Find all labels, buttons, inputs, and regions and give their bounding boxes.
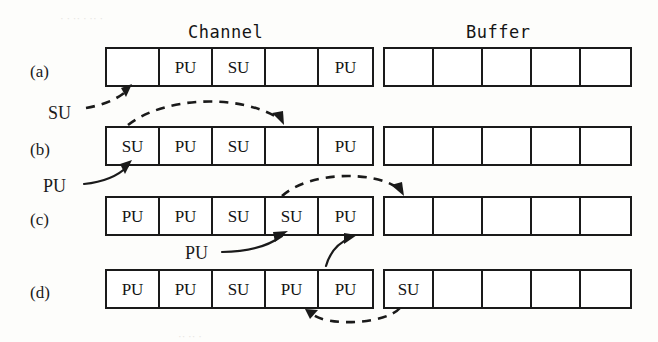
channel-strip-d: PU PU SU PU PU	[105, 269, 374, 309]
channel-cell[interactable]: PU	[266, 271, 319, 307]
channel-strip-a: PU SU PU	[105, 47, 374, 87]
caption-pu-arrival-b: PU	[43, 176, 66, 197]
buffer-cell[interactable]	[532, 198, 581, 234]
channel-cell[interactable]: PU	[160, 49, 213, 85]
channel-cell[interactable]: PU	[160, 271, 213, 307]
buffer-cell[interactable]	[434, 198, 483, 234]
arrow-channel-b-shift-icon	[128, 101, 278, 125]
channel-cell[interactable]: SU	[213, 49, 266, 85]
buffer-cell[interactable]	[581, 49, 630, 85]
row-label-c: (c)	[30, 210, 49, 230]
channel-cell[interactable]	[107, 49, 160, 85]
arrow-channel-c-to-buffer-icon	[282, 176, 398, 196]
row-label-d: (d)	[30, 283, 50, 303]
channel-cell[interactable]: PU	[160, 128, 213, 164]
channel-cell[interactable]: SU	[213, 128, 266, 164]
buffer-cell[interactable]	[532, 128, 581, 164]
channel-cell[interactable]	[266, 128, 319, 164]
channel-cell[interactable]: SU	[266, 198, 319, 234]
channel-cell[interactable]: SU	[213, 198, 266, 234]
channel-cell[interactable]: PU	[319, 128, 372, 164]
channel-cell[interactable]: PU	[319, 49, 372, 85]
channel-cell[interactable]: SU	[213, 271, 266, 307]
buffer-strip-d: SU	[383, 269, 632, 309]
channel-cell[interactable]: PU	[107, 198, 160, 234]
arrow-pu-to-channel-b-icon	[84, 166, 128, 184]
arrow-su-to-channel-a-icon	[86, 90, 128, 108]
buffer-strip-c	[383, 196, 632, 236]
arrow-channel-c-to-buffer-head-icon	[391, 182, 404, 196]
page-speckle: · · ·· · ·· ·	[60, 12, 103, 24]
buffer-cell[interactable]	[581, 271, 630, 307]
buffer-strip-b	[383, 126, 632, 166]
row-label-b: (b)	[30, 140, 50, 160]
buffer-cell[interactable]	[483, 49, 532, 85]
buffer-cell[interactable]	[532, 49, 581, 85]
channel-cell[interactable]: PU	[319, 198, 372, 234]
channel-strip-b: SU PU SU PU	[105, 126, 374, 166]
buffer-cell[interactable]	[385, 128, 434, 164]
buffer-cell[interactable]	[581, 198, 630, 234]
channel-cell[interactable]: SU	[107, 128, 160, 164]
buffer-cell[interactable]	[434, 49, 483, 85]
arrow-pu-to-channel-c-icon	[222, 236, 282, 252]
channel-cell[interactable]: PU	[160, 198, 213, 234]
figure-canvas: · · ·· · ·· · ·· ·· · Channel Buffer (a)…	[0, 0, 658, 342]
arrow-buffer-to-channel-d-icon	[312, 308, 400, 322]
caption-pu-arrival-c: PU	[185, 243, 208, 264]
arrow-buffer-to-channel-d-head-icon	[305, 309, 318, 319]
column-heading-buffer: Buffer	[466, 22, 530, 42]
page-speckle: ·· ·· ·	[178, 330, 202, 342]
buffer-cell[interactable]	[581, 128, 630, 164]
buffer-cell[interactable]	[532, 271, 581, 307]
buffer-cell[interactable]	[434, 271, 483, 307]
buffer-cell[interactable]	[483, 271, 532, 307]
buffer-cell[interactable]	[483, 198, 532, 234]
column-heading-channel: Channel	[188, 22, 263, 42]
channel-strip-c: PU PU SU SU PU	[105, 196, 374, 236]
buffer-strip-a	[383, 47, 632, 87]
buffer-cell[interactable]: SU	[385, 271, 434, 307]
channel-cell[interactable]	[266, 49, 319, 85]
channel-cell[interactable]: PU	[107, 271, 160, 307]
arrow-channel-d-eject-icon	[326, 238, 350, 266]
channel-cell[interactable]: PU	[319, 271, 372, 307]
buffer-cell[interactable]	[434, 128, 483, 164]
buffer-cell[interactable]	[483, 128, 532, 164]
caption-su-arrival: SU	[48, 103, 71, 124]
buffer-cell[interactable]	[385, 49, 434, 85]
arrow-channel-b-shift-head-icon	[272, 111, 284, 125]
buffer-cell[interactable]	[385, 198, 434, 234]
row-label-a: (a)	[30, 62, 49, 82]
